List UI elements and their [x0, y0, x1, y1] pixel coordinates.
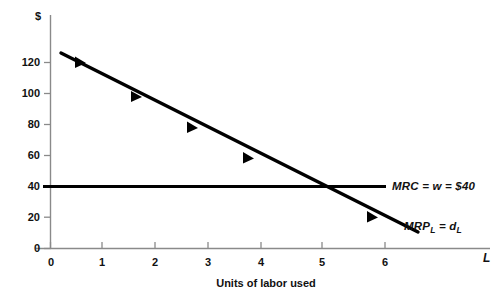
mrp-series-label: MRPL = dL	[404, 220, 462, 232]
x-tick-label-6: 6	[375, 256, 395, 268]
y-axis-unit-symbol: $	[35, 10, 41, 22]
mrp-label-subscript-2: L	[457, 225, 462, 235]
y-tick-label-60: 60	[16, 149, 40, 161]
mrc-series-label: MRC = w = $40	[392, 180, 475, 192]
y-tick-label-20: 20	[16, 211, 40, 223]
y-tick-label-40: 40	[16, 180, 40, 192]
x-tick-label-2: 2	[145, 256, 165, 268]
y-tick-label-80: 80	[16, 118, 40, 130]
x-tick-label-4: 4	[251, 256, 271, 268]
x-tick-label-0: 0	[41, 256, 61, 268]
x-tick-label-3: 3	[198, 256, 218, 268]
y-tick-label-120: 120	[16, 56, 40, 68]
chart-figure: 120 100 80 60 40 20 0 $ 0 1 2 3 4 5 6 L …	[0, 0, 502, 307]
x-axis-symbol-label: L	[483, 251, 490, 265]
mrp-label-subscript-1: L	[430, 225, 435, 235]
x-tick-label-5: 5	[312, 256, 332, 268]
mrp-label-main: MRP	[404, 220, 430, 232]
y-tick-label-0: 0	[16, 242, 40, 254]
x-tick-label-1: 1	[92, 256, 112, 268]
x-axis-title: Units of labor used	[166, 277, 366, 289]
mrp-label-equals: = d	[436, 220, 457, 232]
y-tick-label-100: 100	[16, 87, 40, 99]
mrp-line	[61, 53, 418, 232]
